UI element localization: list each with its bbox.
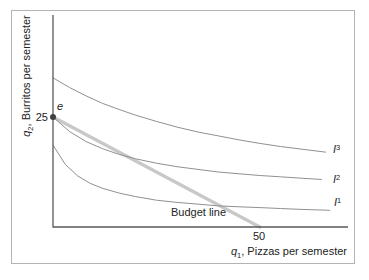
indifference-curve-3-label: I3	[333, 143, 340, 156]
y-axis-tick-25: 25	[24, 111, 48, 124]
y-axis-label-text: , Burritos per semester	[20, 15, 32, 126]
x-axis-label: q1, Pizzas per semester	[140, 245, 347, 258]
y-axis-variable: q	[20, 131, 32, 137]
plot-points	[50, 114, 56, 120]
curve-1-superscript: 1	[337, 196, 341, 205]
plot-area	[0, 0, 369, 280]
optimal-bundle-point	[50, 114, 56, 120]
budget-line-label: Budget line	[171, 206, 226, 219]
x-axis-tick-50: 50	[246, 230, 272, 243]
y-axis-subscript: 2	[26, 126, 35, 130]
indifference-curve-2-label: I2	[333, 173, 340, 186]
point-e-label: e	[57, 100, 63, 113]
x-axis-label-text: , Pizzas per semester	[241, 245, 347, 257]
indifference-curve-1-label: I1	[334, 196, 341, 209]
indifference-curve-3	[53, 78, 326, 152]
curve-3-superscript: 3	[336, 143, 340, 152]
budget-line	[53, 117, 260, 227]
plot-lines	[53, 78, 330, 227]
indifference-curve-2	[53, 117, 322, 180]
figure-canvas: q2, Burritos per semester q1, Pizzas per…	[0, 0, 369, 280]
curve-2-superscript: 2	[336, 173, 340, 182]
